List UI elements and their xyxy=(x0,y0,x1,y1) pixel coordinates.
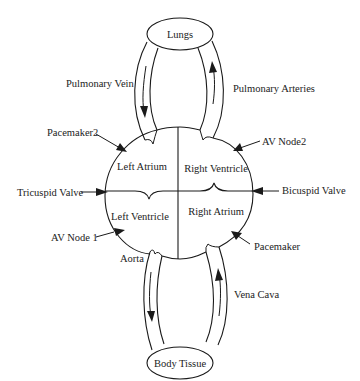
pacemaker-label: Pacemaker xyxy=(254,241,301,252)
callouts: Pacemaker2 AV Node2 Tricuspid Valve Bicu… xyxy=(17,127,346,252)
heart: Left Atrium Right Ventricle Left Ventric… xyxy=(105,127,253,259)
systemic-vessels xyxy=(144,244,227,350)
av-node1-label: AV Node 1 xyxy=(51,232,98,243)
vena-cava-flow-arrowhead xyxy=(215,268,223,281)
pulmonary-arteries-flow-arrowhead xyxy=(209,61,217,73)
av-node2-arrowhead xyxy=(233,143,243,151)
body-tissue-label: Body Tissue xyxy=(154,358,207,369)
right-atrium-label: Right Atrium xyxy=(188,206,244,217)
av-node1-arrowhead xyxy=(114,228,125,236)
right-ventricle-label: Right Ventricle xyxy=(184,163,248,174)
pulmonary-arteries-inner-wall xyxy=(198,48,207,130)
vena-cava-inner-wall xyxy=(206,252,214,342)
pacemaker-pointer xyxy=(238,236,250,244)
circulation-diagram: Lungs Body Tissue Left Atrium Right Vent… xyxy=(0,0,360,381)
left-ventricle-label: Left Ventricle xyxy=(111,211,169,222)
pulmonary-vein-inner-wall xyxy=(150,48,158,130)
heart-outline xyxy=(105,127,253,259)
vena-cava-outer-wall xyxy=(218,247,227,345)
vena-cava-label: Vena Cava xyxy=(234,289,280,300)
pulmonary-vein-label: Pulmonary Vein xyxy=(66,78,135,89)
pulmonary-arteries-label: Pulmonary Arteries xyxy=(233,83,315,94)
av-node2-label: AV Node2 xyxy=(262,136,306,147)
pulmonary-vessels xyxy=(135,41,224,144)
tricuspid-valve-arrowhead xyxy=(96,188,108,196)
tricuspid-valve-label: Tricuspid Valve xyxy=(17,187,84,198)
pulmonary-arteries-outer-wall xyxy=(212,41,223,138)
aorta-outer-wall xyxy=(144,252,152,350)
aorta-label: Aorta xyxy=(120,253,144,264)
vena-cava-junction xyxy=(206,244,219,252)
aorta-flow-arrowhead xyxy=(147,311,155,322)
lungs-label: Lungs xyxy=(167,29,193,40)
aorta-inner-wall xyxy=(157,256,164,344)
pacemaker2-pointer xyxy=(96,134,120,148)
right-av-valve xyxy=(178,183,253,191)
left-atrium-label: Left Atrium xyxy=(117,161,167,172)
pulmonary-vein-flow-line xyxy=(143,66,146,112)
left-av-valve xyxy=(105,191,178,199)
pulmonary-arteries-junction xyxy=(200,130,213,140)
lungs-organ: Lungs xyxy=(147,18,213,50)
body-tissue-organ: Body Tissue xyxy=(147,347,213,379)
bicuspid-valve-label: Bicuspid Valve xyxy=(282,185,346,196)
pulmonary-vein-outer-wall xyxy=(135,42,147,140)
av-node1-pointer xyxy=(96,232,114,237)
aorta-flow-line xyxy=(150,272,152,316)
pulmonary-vein-flow-arrowhead xyxy=(140,106,148,118)
pacemaker2-label: Pacemaker2 xyxy=(47,127,98,138)
aorta-junction xyxy=(150,250,162,256)
av-node2-pointer xyxy=(240,141,260,148)
